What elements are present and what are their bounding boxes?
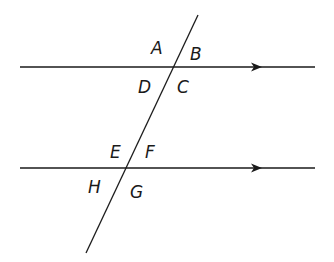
angle-label-f: F <box>145 142 155 162</box>
transversal-line <box>86 15 198 253</box>
angle-label-d: D <box>138 77 151 97</box>
angle-label-h: H <box>88 177 101 197</box>
angle-label-c: C <box>177 77 189 97</box>
angle-label-g: G <box>130 182 143 202</box>
angle-label-b: B <box>190 44 202 64</box>
parallel-lines-diagram: A B D C E F H G <box>0 0 334 262</box>
angle-label-e: E <box>110 142 121 162</box>
angle-label-a: A <box>150 38 163 58</box>
